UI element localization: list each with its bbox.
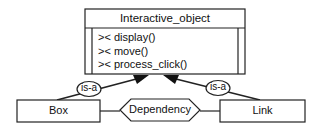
is-a-label-right: is-a: [206, 81, 230, 92]
arrowhead-icon: [163, 75, 179, 84]
method-name: display(): [114, 31, 156, 43]
method-name: move(): [114, 45, 148, 57]
arrowhead-icon: [133, 75, 149, 84]
dependency-label: Dependency: [120, 103, 200, 115]
is-a-label-left: is-a: [77, 82, 101, 93]
method-list: >< display() >< move() >< process_click(…: [98, 31, 187, 72]
class-link-label[interactable]: Link: [220, 104, 305, 116]
method-marker: ><: [98, 45, 111, 57]
class-name: Interactive_object: [85, 12, 245, 24]
method-item: >< move(): [98, 45, 187, 59]
method-item: >< process_click(): [98, 58, 187, 72]
inheritance-arrow-box: [57, 75, 149, 100]
class-box-label[interactable]: Box: [17, 104, 100, 116]
method-item: >< display(): [98, 31, 187, 45]
method-marker: ><: [98, 31, 111, 43]
method-marker: ><: [98, 58, 111, 70]
method-name: process_click(): [114, 58, 187, 70]
